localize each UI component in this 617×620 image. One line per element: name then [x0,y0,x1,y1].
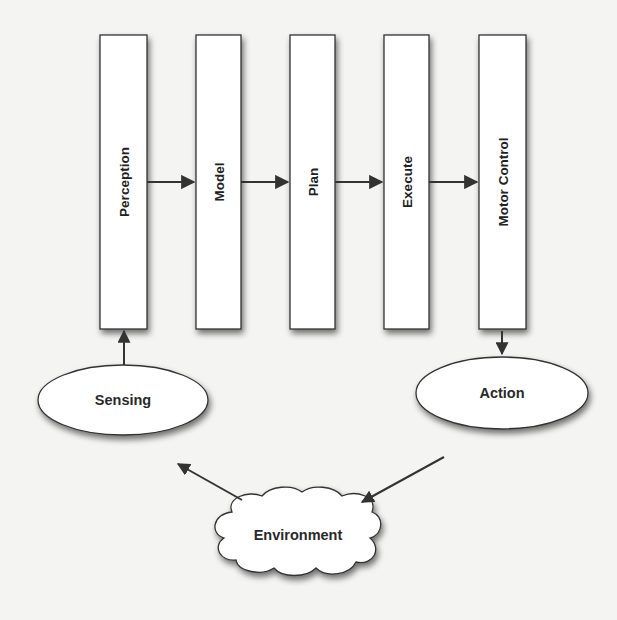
node-environment: Environment [215,487,381,575]
node-sensing: Sensing [38,365,208,435]
execute-label: Execute [400,156,415,208]
arrow-environment-to-sensing [178,464,242,500]
sensing-label: Sensing [95,392,151,408]
arrow-action-to-environment [362,457,444,502]
pipeline-box-perception: Perception [100,35,147,329]
environment-label: Environment [254,527,343,543]
node-action: Action [416,357,588,429]
model-label: Model [212,163,227,202]
pipeline-box-execute: Execute [384,35,429,329]
pipeline-box-motor-control: Motor Control [479,35,526,329]
sense-plan-act-diagram: Perception Model Plan Execute Motor Cont… [0,0,617,620]
pipeline-box-plan: Plan [290,35,335,329]
pipeline-box-model: Model [196,35,241,329]
plan-label: Plan [306,168,321,197]
action-label: Action [479,385,524,401]
motor-control-label: Motor Control [496,137,511,226]
perception-label: Perception [117,147,132,217]
